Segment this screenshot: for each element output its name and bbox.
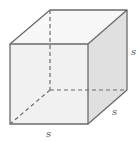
- width-label: s: [46, 128, 51, 139]
- height-label: s: [131, 46, 136, 57]
- front-face: [10, 44, 88, 124]
- depth-label: s: [112, 106, 117, 117]
- cube-diagram: s s s: [0, 0, 139, 141]
